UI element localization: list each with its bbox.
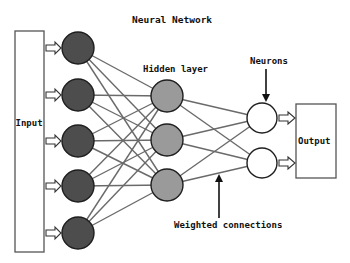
hidden-layer	[151, 80, 183, 201]
hollow-arrow-icon	[46, 227, 61, 239]
output-layer	[247, 103, 277, 178]
hollow-arrow-icon	[46, 89, 61, 101]
output-neuron	[247, 103, 277, 133]
output-arrows	[279, 112, 295, 169]
hidden-neuron	[151, 169, 183, 201]
diagram-title: Neural Network	[132, 14, 212, 25]
weighted-connections-label: Weighted connections	[174, 220, 282, 230]
output-label: Output	[298, 136, 331, 146]
input-neuron	[62, 125, 94, 157]
neural-network-diagram: Neural Network Input Output	[0, 0, 350, 263]
input-neuron	[62, 170, 94, 202]
input-label: Input	[16, 118, 43, 128]
hidden-neuron	[151, 80, 183, 112]
hollow-arrow-icon	[46, 42, 61, 54]
hollow-arrow-icon	[279, 157, 295, 169]
hidden-neuron	[151, 124, 183, 156]
hollow-arrow-icon	[46, 135, 61, 147]
input-neuron	[62, 217, 94, 249]
hollow-arrow-icon	[46, 180, 61, 192]
hollow-arrow-icon	[279, 112, 295, 124]
input-neuron	[62, 32, 94, 64]
output-box: Output	[296, 104, 336, 178]
output-neuron	[247, 148, 277, 178]
input-arrows	[46, 42, 61, 239]
input-neuron	[62, 79, 94, 111]
hidden-layer-label: Hidden layer	[143, 64, 209, 74]
input-box: Input	[15, 31, 44, 252]
neurons-label: Neurons	[250, 56, 288, 66]
